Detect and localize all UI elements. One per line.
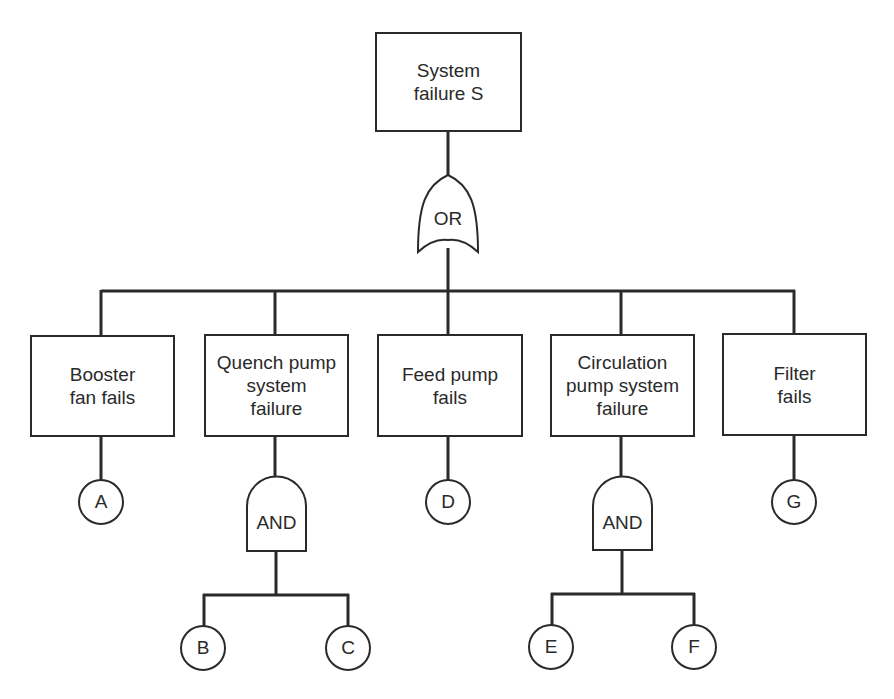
- event-feed-box: Feed pump fails: [377, 334, 523, 437]
- event-booster-box: Booster fan fails: [30, 335, 175, 437]
- event-filter-box: Filter fails: [722, 333, 867, 436]
- event-booster-label: Booster fan fails: [70, 363, 135, 409]
- event-filter-label: Filter fails: [773, 362, 815, 408]
- event-quench-box: Quench pump system failure: [204, 334, 349, 437]
- basic-event-a: A: [78, 479, 124, 525]
- or-gate-label: OR: [418, 208, 478, 230]
- and-gate-label-circulation: AND: [593, 512, 652, 534]
- basic-event-e: E: [528, 624, 574, 670]
- top-event-label: System failure S: [414, 59, 484, 105]
- basic-event-f: F: [671, 624, 717, 670]
- basic-event-d: D: [425, 479, 471, 525]
- event-quench-label: Quench pump system failure: [217, 351, 336, 420]
- basic-event-g: G: [771, 479, 817, 525]
- basic-event-c: C: [325, 625, 371, 671]
- and-gate-label-quench: AND: [247, 512, 306, 534]
- basic-event-b: B: [180, 625, 226, 671]
- top-event-box: System failure S: [375, 32, 522, 132]
- event-circulation-label: Circulation pump system failure: [566, 351, 679, 420]
- event-feed-label: Feed pump fails: [402, 363, 498, 409]
- event-circulation-box: Circulation pump system failure: [550, 334, 695, 437]
